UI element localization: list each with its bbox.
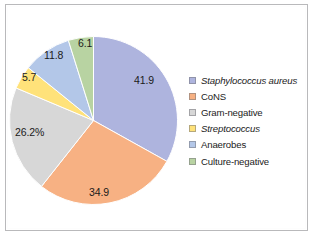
slice-value-label: 26.2% [15, 126, 44, 138]
legend-color-swatch [189, 77, 196, 84]
slice-value-label: 41.9 [134, 74, 154, 86]
legend-item: Streptococcus [189, 121, 316, 137]
pie-slice-group [9, 37, 177, 205]
legend-item: Anaerobes [189, 137, 316, 153]
pie-chart [9, 36, 178, 206]
slice-value-label: 6.1 [78, 37, 92, 49]
slice-value-label: 5.7 [22, 71, 36, 83]
legend-color-swatch [189, 109, 196, 116]
chart-legend: Staphylococcus aureusCoNSGram-negativeSt… [189, 72, 316, 169]
legend-item-label: Streptococcus [201, 123, 260, 134]
legend-item-label: Culture-negative [201, 156, 269, 167]
slice-value-label: 34.9 [89, 186, 109, 198]
legend-color-swatch [189, 141, 196, 148]
legend-item: CoNS [189, 88, 316, 104]
legend-item-label: Anaerobes [201, 139, 246, 150]
legend-item: Culture-negative [189, 153, 316, 169]
slice-value-label: 11.8 [44, 49, 63, 61]
legend-item: Staphylococcus aureus [189, 72, 316, 88]
legend-item: Gram-negative [189, 104, 316, 120]
legend-color-swatch [189, 125, 196, 132]
legend-item-label: Staphylococcus aureus [201, 75, 297, 86]
pie-chart-figure: 41.934.926.2%5.711.86.1 Staphylococcus a… [0, 0, 316, 238]
legend-color-swatch [189, 93, 196, 100]
legend-item-label: CoNS [201, 91, 226, 102]
legend-color-swatch [189, 158, 196, 165]
legend-item-label: Gram-negative [201, 107, 263, 118]
